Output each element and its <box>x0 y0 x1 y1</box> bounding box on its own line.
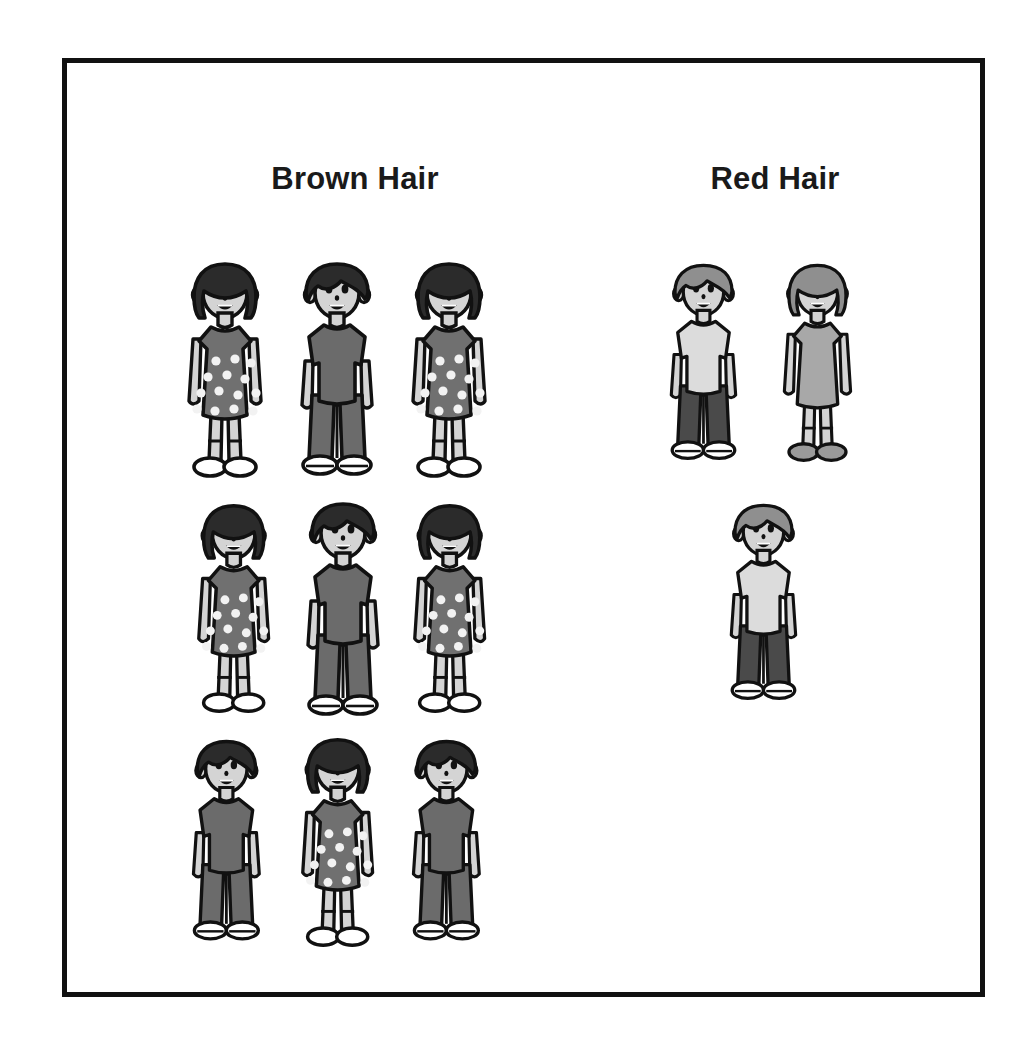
person-icon-boy-brown-hair <box>293 255 381 481</box>
person-icon-boy-brown-hair <box>299 495 387 721</box>
column-title-brown-hair: Brown Hair <box>271 161 438 197</box>
person-icon-girl-brown-hair <box>295 731 380 950</box>
person-figure-svg <box>405 255 493 481</box>
person-figure-svg <box>663 257 744 465</box>
person-figure-svg <box>191 497 276 716</box>
person-icon-boy-brown-hair <box>185 733 268 945</box>
person-icon-girl-brown-hair <box>407 497 492 716</box>
person-figure-svg <box>295 731 380 950</box>
person-figure-svg <box>299 495 387 721</box>
person-icon-boy-red-hair <box>663 257 744 465</box>
column-title-red-hair: Red Hair <box>710 161 839 197</box>
person-icon-girl-brown-hair <box>405 255 493 481</box>
person-figure-svg <box>185 733 268 945</box>
person-figure-svg <box>405 733 488 945</box>
person-figure-svg <box>407 497 492 716</box>
person-icon-boy-brown-hair <box>405 733 488 945</box>
person-figure-svg <box>181 255 269 481</box>
person-figure-svg <box>723 497 804 705</box>
person-figure-svg <box>293 255 381 481</box>
person-icon-boy-red-hair <box>723 497 804 705</box>
person-icon-girl-red-hair <box>777 257 858 465</box>
chart-frame: Brown Hair Red Hair <box>62 58 985 997</box>
person-figure-svg <box>777 257 858 465</box>
person-icon-girl-brown-hair <box>181 255 269 481</box>
person-icon-girl-brown-hair <box>191 497 276 716</box>
